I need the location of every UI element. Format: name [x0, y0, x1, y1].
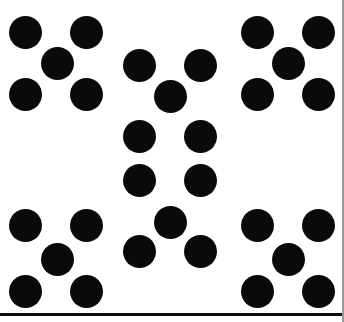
- dot: [302, 275, 335, 308]
- bottom-horizontal-rule: [0, 313, 344, 316]
- dot: [272, 243, 305, 276]
- dot-group-bottom-right-quincunx: [0, 0, 344, 322]
- dot: [241, 209, 274, 242]
- dot: [302, 209, 335, 242]
- dot: [241, 275, 274, 308]
- dot-pattern-figure: Dot pattern array: [0, 0, 344, 322]
